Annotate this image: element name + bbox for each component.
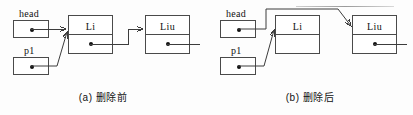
- node-li: Li: [68, 15, 113, 54]
- p1-pointer-box: [13, 57, 49, 75]
- head-pointer-dot: [30, 28, 34, 32]
- node-li-data-label: Li: [293, 21, 303, 32]
- node-liu-data-cell: Liu: [146, 16, 189, 35]
- p1-pointer-label: p1: [231, 45, 242, 56]
- p1-pointer-label: p1: [24, 45, 35, 56]
- node-li-data-cell: Li: [276, 16, 319, 35]
- node-liu-next-dot: [373, 42, 377, 46]
- node-li: Li: [275, 15, 320, 54]
- head-pointer-label: head: [19, 8, 39, 19]
- node-liu: Liu: [145, 15, 190, 54]
- node-liu: Liu: [352, 15, 397, 54]
- linked-list-deletion-figure: head p1 Li Liu: [0, 0, 413, 115]
- node-liu-data-cell: Liu: [353, 16, 396, 35]
- p1-pointer-box: [220, 57, 256, 75]
- node-liu-next-dot: [166, 42, 170, 46]
- p1-pointer-dot: [30, 65, 34, 69]
- caption-panel-a: (a) 删除前: [0, 92, 206, 104]
- head-pointer-box: [13, 20, 49, 38]
- node-liu-data-label: Liu: [367, 21, 382, 32]
- head-pointer-dot: [237, 28, 241, 32]
- node-li-next-cell: [69, 35, 112, 54]
- node-li-data-label: Li: [86, 21, 96, 32]
- caption-panel-b: (b) 删除后: [207, 92, 413, 104]
- panel-after-deletion: head p1 Li Liu: [207, 0, 413, 115]
- node-liu-next-cell: [353, 35, 396, 54]
- p1-pointer-dot: [237, 65, 241, 69]
- node-liu-next-cell: [146, 35, 189, 54]
- node-li-next-dot: [89, 42, 93, 46]
- head-pointer-box: [220, 20, 256, 38]
- node-li-data-cell: Li: [69, 16, 112, 35]
- head-pointer-label: head: [226, 8, 246, 19]
- node-liu-data-label: Liu: [160, 21, 175, 32]
- panel-before-deletion: head p1 Li Liu: [0, 0, 206, 115]
- node-li-next-cell: [276, 35, 319, 54]
